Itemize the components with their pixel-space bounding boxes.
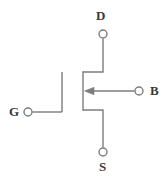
body-terminal-node[interactable] — [135, 87, 143, 95]
gate-terminal-label: G — [9, 105, 19, 118]
body-terminal-label: B — [150, 84, 159, 97]
gate-terminal-node[interactable] — [24, 108, 32, 116]
mosfet-schematic-drawing — [0, 0, 167, 179]
drain-terminal-label: D — [96, 9, 105, 22]
body-arrowhead-icon — [85, 87, 95, 94]
source-terminal-label: S — [99, 160, 106, 173]
source-terminal-node[interactable] — [99, 148, 107, 156]
source-lead-wire — [83, 110, 103, 148]
mosfet-symbol-figure: D G B S — [0, 0, 167, 179]
drain-terminal-node[interactable] — [99, 30, 107, 38]
drain-lead-wire — [83, 39, 103, 73]
